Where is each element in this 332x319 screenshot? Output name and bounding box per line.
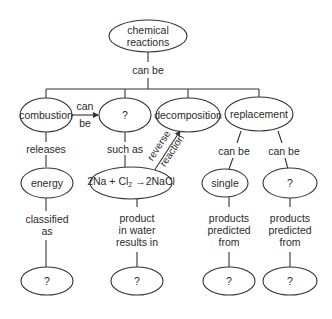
link-label-can-be-other: can be (268, 145, 300, 157)
product-line-3: results in (116, 236, 158, 248)
link-label-can-be-root: can be (132, 64, 164, 76)
pred-b-line-1: products (268, 212, 311, 224)
product-line-1: product (116, 212, 158, 224)
link-label-products-predicted-b: products predicted from (268, 212, 311, 248)
node-label-energy-class-unknown: ? (44, 275, 50, 287)
equation-subscript: 2 (128, 181, 132, 188)
root-label: chemical reactions (118, 24, 178, 48)
link-label-can-be-single: can be (218, 145, 250, 157)
edge-repl-canbe-right (278, 131, 282, 143)
node-label-replacement: replacement (230, 108, 288, 120)
equation-arrow-icon: → (135, 175, 146, 187)
edge-canbe-right-unknown (285, 158, 288, 169)
node-label-single: single (211, 177, 238, 189)
edge-repl-canbe-left (237, 131, 241, 143)
link-label-releases: releases (26, 143, 66, 155)
node-label-water-result-unknown: ? (134, 275, 140, 287)
pred-b-line-2: predicted (268, 224, 311, 236)
classified-line-1: classified (25, 213, 68, 225)
node-label-replacement-unknown: ? (287, 177, 293, 189)
link-label-product-in-water: product in water results in (116, 212, 158, 248)
product-line-2: in water (116, 224, 158, 236)
classified-line-2: as (25, 225, 68, 237)
pred-a-line-2: predicted (207, 224, 250, 236)
pred-b-line-3: from (268, 236, 311, 248)
link-label-products-predicted-a: products predicted from (207, 212, 250, 248)
edge-canbe-single (229, 158, 233, 169)
node-label-energy: energy (31, 177, 63, 189)
link-label-be: be (79, 117, 91, 129)
pred-a-line-3: from (207, 236, 250, 248)
node-label-equation: 2Na + Cl2 →2NaCl (87, 175, 175, 191)
link-label-classified: classified as (25, 213, 68, 237)
link-label-can: can (77, 100, 94, 112)
equation-rhs: 2NaCl (146, 175, 175, 187)
node-label-combustion: combustion (19, 109, 73, 121)
node-label-decomposition: decomposition (154, 109, 222, 121)
node-label-chemical-reactions: chemical reactions (118, 24, 178, 48)
equation-lhs: 2Na + Cl (87, 175, 128, 187)
node-label-single-predicted-unknown: ? (226, 275, 232, 287)
pred-a-line-1: products (207, 212, 250, 224)
link-label-such-as: such as (107, 143, 143, 155)
node-label-unknown-type: ? (122, 109, 128, 121)
node-label-other-predicted-unknown: ? (287, 275, 293, 287)
